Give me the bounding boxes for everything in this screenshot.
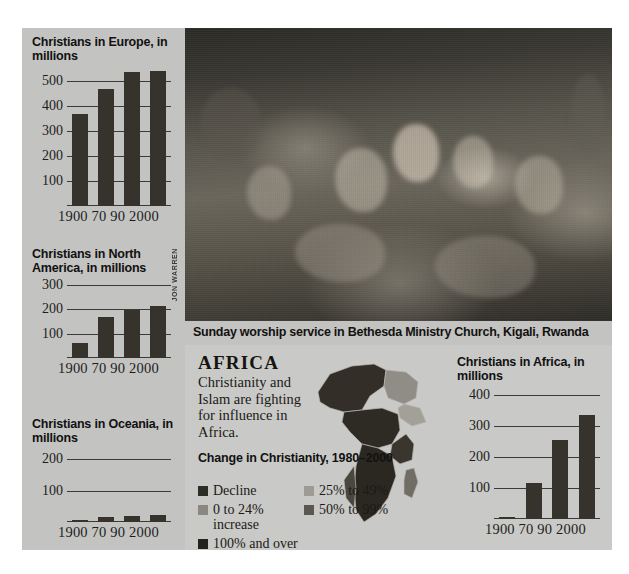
y-tick-label-100: 100 (42, 326, 63, 342)
gridline-300 (67, 285, 171, 286)
bar-70 (98, 317, 114, 358)
x-axis-labels-africa: 1900 70 90 2000 (485, 521, 607, 538)
legend-item[interactable]: 100% and over (198, 536, 304, 552)
bar-1900 (499, 517, 515, 520)
legend-item[interactable]: 50% to 99% (304, 502, 420, 533)
bar-2000 (150, 515, 166, 523)
africa-description: Christianity and Islam are fighting for … (198, 374, 316, 440)
plot-area-north-america: 100200300 (67, 280, 171, 358)
africa-heading: AFRICA (198, 352, 279, 374)
x-axis-labels-europe: 1900 70 90 2000 (58, 208, 178, 225)
worship-service-photo (185, 28, 612, 321)
map-region-northeast (384, 370, 418, 404)
bar-70 (526, 483, 542, 519)
y-tick-label-100: 100 (42, 173, 63, 189)
map-legend: Decline25% to 49%0 to 24% increase50% to… (198, 483, 420, 551)
y-tick-label-400: 400 (42, 98, 63, 114)
map-region-horn (398, 404, 426, 426)
gridline-200 (67, 459, 171, 460)
gridline-400 (494, 395, 600, 396)
y-tick-label-100: 100 (42, 483, 63, 499)
y-tick-label-500: 500 (42, 73, 63, 89)
legend-label: 50% to 99% (319, 502, 388, 518)
chart-title-europe: Christians in Europe, in millions (32, 36, 178, 63)
legend-swatch-icon (304, 505, 314, 515)
bar-1900 (72, 520, 88, 523)
x-axis-labels-north-america: 1900 70 90 2000 (58, 360, 178, 377)
infographic-page: Christians in Europe, in millions 100200… (0, 0, 629, 574)
map-region-west-africa (318, 364, 386, 412)
legend-swatch-icon (304, 486, 314, 496)
bar-1900 (72, 114, 88, 206)
legend-swatch-icon (198, 539, 208, 549)
bar-1900 (72, 343, 88, 358)
photo-panel (185, 28, 612, 321)
plot-area-oceania: 100200 (67, 450, 171, 522)
legend-label: 100% and over (213, 536, 298, 552)
bar-90 (124, 516, 140, 522)
photo-caption-band: Sunday worship service in Bethesda Minis… (185, 321, 612, 345)
chart-title-north-america: Christians in North America, in millions (32, 248, 178, 275)
chart-title-oceania: Christians in Oceania, in millions (32, 418, 178, 445)
legend-label: Decline (213, 483, 257, 499)
y-tick-label-100: 100 (469, 480, 490, 496)
legend-label: 0 to 24% increase (213, 502, 304, 533)
bar-90 (124, 72, 140, 206)
chart-christians-in-africa: Christians in Africa, in millions 100200… (457, 356, 607, 546)
y-tick-label-300: 300 (42, 123, 63, 139)
photo-credit: JON WARREN (171, 248, 178, 301)
chart-christians-in-oceania: Christians in Oceania, in millions 10020… (32, 418, 178, 543)
legend-label: 25% to 49% (319, 483, 388, 499)
legend-item[interactable]: 0 to 24% increase (198, 502, 304, 533)
chart-christians-in-europe: Christians in Europe, in millions 100200… (32, 36, 178, 226)
legend-item[interactable]: Decline (198, 483, 304, 499)
bar-2000 (150, 306, 166, 358)
y-tick-label-200: 200 (42, 148, 63, 164)
photo-grain-overlay (185, 28, 612, 321)
y-tick-label-200: 200 (42, 301, 63, 317)
legend-title: Change in Christianity, 1980–2000 (198, 451, 393, 465)
legend-swatch-icon (198, 486, 208, 496)
plot-area-europe: 100200300400500 (67, 66, 171, 206)
y-tick-label-300: 300 (42, 277, 63, 293)
y-tick-label-200: 200 (42, 451, 63, 467)
legend-item[interactable]: 25% to 49% (304, 483, 420, 499)
bar-90 (124, 310, 140, 358)
bar-70 (98, 89, 114, 206)
x-axis-labels-oceania: 1900 70 90 2000 (58, 524, 178, 541)
photo-caption: Sunday worship service in Bethesda Minis… (193, 325, 588, 339)
y-tick-label-200: 200 (469, 449, 490, 465)
bar-2000 (579, 415, 595, 519)
legend-swatch-icon (198, 505, 208, 515)
bar-70 (98, 517, 114, 522)
chart-title-africa: Christians in Africa, in millions (457, 356, 607, 383)
map-region-central-africa (342, 408, 400, 448)
gridline-100 (67, 491, 171, 492)
chart-christians-in-north-america: Christians in North America, in millions… (32, 248, 178, 388)
bar-90 (552, 440, 568, 519)
y-tick-label-400: 400 (469, 387, 490, 403)
y-tick-label-300: 300 (469, 418, 490, 434)
plot-area-africa: 100200300400 (494, 386, 600, 519)
bar-2000 (150, 71, 166, 206)
